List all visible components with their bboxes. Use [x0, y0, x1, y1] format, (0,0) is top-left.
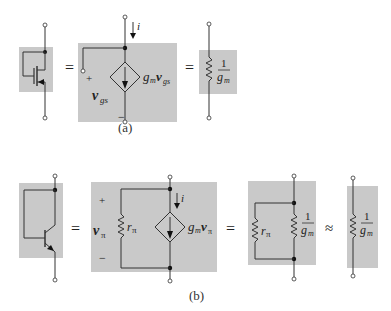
svg-text:v: v: [201, 219, 207, 234]
circuit-diagram: = i + − v gs g m v gs = 1 g m: [0, 0, 391, 311]
vgs-label: v: [92, 88, 99, 103]
svg-text:m: m: [367, 229, 373, 238]
terminal-icon: [292, 277, 296, 281]
resistor-value-den: g: [217, 70, 223, 84]
gm-vpi-label: g: [188, 219, 195, 234]
resistor-value-den: g: [360, 223, 366, 237]
svg-text:π: π: [208, 227, 212, 236]
plus-label: +: [86, 72, 92, 84]
current-label: i: [181, 192, 184, 204]
terminal-icon: [43, 23, 47, 27]
current-label: i: [137, 20, 140, 32]
plus-label: +: [99, 194, 105, 206]
vpi-label: v: [93, 223, 100, 238]
resistor-value-den: g: [301, 223, 307, 237]
caption-a: (a): [118, 120, 132, 136]
bjt-diode-box: [19, 174, 63, 282]
resistor-value-num: 1: [305, 210, 311, 222]
terminal-icon: [168, 279, 172, 283]
caption-b: (b): [189, 288, 204, 304]
terminal-icon: [207, 22, 211, 26]
equals-sign: =: [226, 220, 235, 237]
svg-text:π: π: [101, 230, 106, 240]
svg-text:gs: gs: [163, 77, 170, 86]
terminal-icon: [292, 174, 296, 178]
approx-sign: ≈: [325, 220, 333, 236]
terminal-icon: [123, 15, 127, 19]
terminal-icon: [53, 174, 57, 178]
resistor-value-num: 1: [221, 57, 227, 69]
minus-label: −: [99, 251, 106, 265]
svg-text:v: v: [156, 69, 162, 84]
equals-sign: =: [185, 59, 194, 76]
terminal-icon: [351, 176, 355, 180]
vccs-box: [78, 15, 177, 124]
terminal-icon: [43, 116, 47, 120]
svg-text:π: π: [132, 225, 137, 235]
terminal-icon: [351, 274, 355, 278]
gm-vgs-label: g: [143, 69, 150, 84]
terminal-icon: [207, 116, 211, 120]
equals-sign: =: [65, 59, 74, 76]
svg-text:m: m: [224, 76, 230, 85]
resistor-value-num: 1: [364, 210, 370, 222]
terminal-icon: [81, 69, 85, 73]
svg-text:π: π: [266, 229, 271, 239]
equals-sign: =: [71, 220, 80, 237]
svg-text:gs: gs: [100, 95, 109, 105]
mosfet-diode-box: [19, 23, 53, 120]
terminal-icon: [53, 278, 57, 282]
current-arrow-icon: [130, 33, 136, 39]
terminal-icon: [168, 175, 172, 179]
svg-text:m: m: [308, 229, 314, 238]
